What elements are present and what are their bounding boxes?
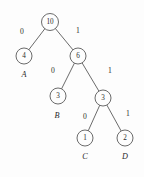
- edge-label-n10-n6: 1: [76, 26, 80, 35]
- edges-layer: [29, 29, 121, 131]
- edge-label-n6-n3b: 1: [108, 66, 112, 75]
- edge-label-n3b-n1: 0: [83, 112, 87, 121]
- tree-edge-n6-n3b: [82, 63, 99, 91]
- tree-edge-n10-n6: [55, 29, 73, 50]
- tree-edge-n6-n3a: [62, 63, 75, 89]
- leaf-label-B: B: [54, 111, 59, 120]
- tree-node-value-n2: 2: [123, 134, 127, 142]
- tree-edge-n10-n4: [29, 29, 45, 50]
- tree-edge-n3b-n2: [107, 105, 121, 131]
- tree-edge-n3b-n1: [88, 105, 99, 130]
- nodes-layer: 10463312: [16, 14, 133, 147]
- tree-node-value-n3b: 3: [101, 94, 105, 102]
- tree-node-value-n3a: 3: [56, 92, 60, 100]
- leaf-label-A: A: [20, 70, 27, 79]
- tree-node-value-n10: 10: [46, 18, 54, 26]
- tree-node-value-n4: 4: [22, 52, 26, 60]
- edge-label-n6-n3a: 0: [51, 66, 55, 75]
- edge-label-n3b-n2: 1: [126, 109, 130, 118]
- leaf-label-C: C: [82, 152, 88, 161]
- tree-node-value-n1: 1: [83, 134, 87, 142]
- edge-label-n10-n4: 0: [20, 27, 24, 36]
- leaf-label-D: D: [121, 152, 128, 161]
- binary-tree-figure: 10463312 010101 ABCD: [0, 0, 144, 177]
- tree-node-value-n6: 6: [76, 52, 80, 60]
- tree-diagram-canvas: 10463312 010101 ABCD: [0, 0, 144, 177]
